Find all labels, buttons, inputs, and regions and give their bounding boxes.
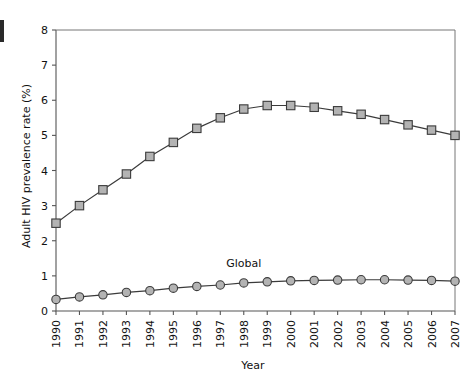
x-tick-label: 1994: [144, 320, 157, 348]
data-point: [263, 278, 271, 286]
data-point: [451, 277, 459, 285]
x-tick-label: 2007: [449, 320, 462, 348]
data-point: [122, 170, 130, 178]
y-axis-ticks: [52, 30, 56, 311]
y-tick-label: 7: [41, 59, 48, 72]
x-tick-label: 1990: [50, 320, 63, 348]
y-tick-label: 6: [41, 94, 48, 107]
data-point: [169, 138, 177, 146]
data-point: [310, 276, 318, 284]
data-series-group: [52, 101, 459, 303]
x-tick-label: 2001: [308, 320, 321, 348]
series-annotations: Global: [226, 257, 261, 270]
y-tick-label: 1: [41, 270, 48, 283]
series-sub-saharan-africa: [52, 101, 459, 227]
data-point: [146, 152, 154, 160]
series-label-global: Global: [226, 257, 261, 270]
x-tick-label: 1997: [214, 320, 227, 348]
data-point: [122, 288, 130, 296]
data-point: [427, 126, 435, 134]
series-path: [56, 280, 455, 300]
x-tick-label: 1992: [97, 320, 110, 348]
data-point: [169, 284, 177, 292]
chart-figure: 012345678 199019911992199319941995199619…: [0, 0, 476, 380]
y-axis-tick-labels: 012345678: [41, 24, 48, 318]
data-point: [52, 295, 60, 303]
x-tick-label: 2003: [355, 320, 368, 348]
x-tick-label: 2000: [285, 320, 298, 348]
data-point: [99, 186, 107, 194]
data-point: [287, 277, 295, 285]
data-point: [427, 276, 435, 284]
line-chart: 012345678 199019911992199319941995199619…: [0, 0, 476, 380]
y-tick-label: 0: [41, 305, 48, 318]
x-axis-title: Year: [240, 359, 265, 372]
x-tick-label: 2002: [332, 320, 345, 348]
x-axis-ticks: [56, 311, 455, 315]
x-tick-label: 2006: [426, 320, 439, 348]
data-point: [380, 115, 388, 123]
data-point: [216, 281, 224, 289]
x-tick-label: 1998: [238, 320, 251, 348]
x-tick-label: 1995: [167, 320, 180, 348]
x-tick-label: 1996: [191, 320, 204, 348]
y-axis-title: Adult HIV prevalence rate (%): [20, 84, 33, 248]
data-point: [75, 293, 83, 301]
series-global: [52, 276, 459, 304]
data-point: [380, 276, 388, 284]
data-point: [310, 103, 318, 111]
x-tick-label: 1999: [261, 320, 274, 348]
data-point: [52, 219, 60, 227]
data-point: [193, 282, 201, 290]
data-point: [240, 279, 248, 287]
y-tick-label: 4: [41, 165, 48, 178]
data-point: [357, 276, 365, 284]
series-path: [56, 106, 455, 224]
y-tick-label: 3: [41, 200, 48, 213]
x-axis-tick-labels: 1990199119921993199419951996199719981999…: [50, 320, 462, 348]
data-point: [240, 105, 248, 113]
data-point: [75, 201, 83, 209]
x-tick-label: 2004: [379, 320, 392, 348]
data-point: [146, 286, 154, 294]
data-point: [287, 101, 295, 109]
data-point: [404, 276, 412, 284]
y-tick-label: 8: [41, 24, 48, 37]
data-point: [193, 124, 201, 132]
data-point: [451, 131, 459, 139]
y-tick-label: 5: [41, 129, 48, 142]
data-point: [357, 110, 365, 118]
data-point: [216, 114, 224, 122]
x-tick-label: 1993: [120, 320, 133, 348]
y-tick-label: 2: [41, 235, 48, 248]
data-point: [263, 101, 271, 109]
data-point: [99, 291, 107, 299]
data-point: [404, 121, 412, 129]
x-tick-label: 1991: [73, 320, 86, 348]
data-point: [333, 107, 341, 115]
x-tick-label: 2005: [402, 320, 415, 348]
data-point: [333, 276, 341, 284]
